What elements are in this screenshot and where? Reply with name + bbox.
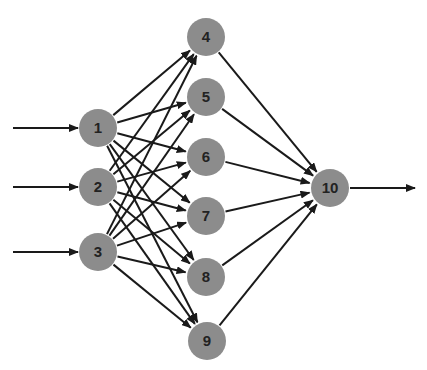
node-label: 1 xyxy=(94,119,102,136)
node-6: 6 xyxy=(187,138,225,176)
node-label: 7 xyxy=(202,207,210,224)
node-8: 8 xyxy=(187,258,225,296)
node-5: 5 xyxy=(187,78,225,116)
edge-3-8 xyxy=(117,257,185,273)
node-label: 9 xyxy=(203,332,211,349)
edge-2-4 xyxy=(110,54,194,171)
node-label: 2 xyxy=(94,178,102,195)
node-2: 2 xyxy=(79,168,117,206)
edge-4-10 xyxy=(219,52,317,171)
node-7: 7 xyxy=(187,197,225,235)
node-10: 10 xyxy=(311,169,349,207)
node-label: 8 xyxy=(202,268,210,285)
edge-9-10 xyxy=(220,204,317,325)
node-label: 6 xyxy=(202,148,210,165)
node-1: 1 xyxy=(79,109,117,147)
node-label: 3 xyxy=(94,243,102,260)
neural-network-diagram: 12345678910 xyxy=(0,0,427,370)
edge-7-10 xyxy=(226,193,310,212)
edge-3-9 xyxy=(113,265,190,328)
node-4: 4 xyxy=(187,18,225,56)
node-3: 3 xyxy=(79,233,117,271)
node-label: 10 xyxy=(322,179,339,196)
node-label: 4 xyxy=(202,28,211,45)
node-label: 5 xyxy=(202,88,210,105)
edge-2-6 xyxy=(117,163,185,182)
edge-5-10 xyxy=(222,109,313,176)
nodes: 12345678910 xyxy=(79,18,349,360)
node-9: 9 xyxy=(188,322,226,360)
